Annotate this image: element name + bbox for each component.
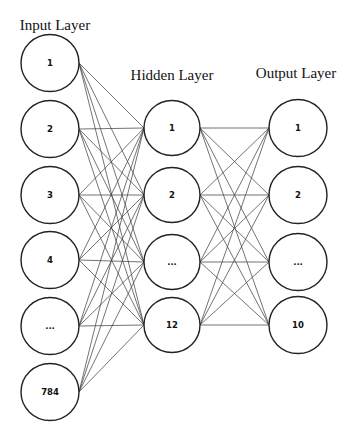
diagram-canvas: 1234...78412...1212...10 Input LayerHidd… xyxy=(0,0,352,438)
output-layer-node: 2 xyxy=(269,167,327,224)
node-label: 2 xyxy=(169,190,175,200)
node-label: 1 xyxy=(47,58,53,68)
node-label: ... xyxy=(45,321,55,331)
connection-edge xyxy=(79,262,144,392)
hidden-layer-node: 12 xyxy=(144,298,200,353)
node-label: ... xyxy=(167,257,177,267)
hidden-layer-node: 1 xyxy=(144,101,200,156)
connection-edge xyxy=(79,325,144,326)
node-label: 784 xyxy=(41,387,59,397)
connection-edge xyxy=(79,325,144,392)
input-layer-node: 2 xyxy=(21,101,79,158)
output-layer-node: ... xyxy=(269,234,327,291)
input-layer-title: Input Layer xyxy=(20,17,90,33)
input-layer-node: 784 xyxy=(21,364,79,421)
connection-edge xyxy=(79,128,144,260)
node-label: 4 xyxy=(47,255,53,265)
node-label: 3 xyxy=(47,190,53,200)
node-label: 2 xyxy=(295,190,301,200)
connection-edge xyxy=(79,195,144,392)
connection-edge xyxy=(79,128,144,129)
hidden-layer-node: ... xyxy=(144,235,200,290)
input-layer-node: 1 xyxy=(21,35,79,92)
node-label: 1 xyxy=(295,123,301,133)
node-label: 10 xyxy=(292,320,304,330)
output-layer-node: 1 xyxy=(269,100,327,157)
node-label: 2 xyxy=(47,124,53,134)
neural-network-diagram: 1234...78412...1212...10 Input LayerHidd… xyxy=(0,0,352,438)
input-layer-node: 3 xyxy=(21,167,79,224)
node-label: 1 xyxy=(169,123,175,133)
output-layer-node: 10 xyxy=(269,297,327,354)
node-label: 12 xyxy=(166,320,178,330)
hidden-layer-node: 2 xyxy=(144,168,200,223)
node-label: ... xyxy=(293,257,303,267)
input-layer-node: ... xyxy=(21,298,79,355)
output-layer-title: Output Layer xyxy=(256,65,336,81)
hidden-layer-title: Hidden Layer xyxy=(131,67,214,83)
connection-edge xyxy=(79,129,144,262)
nodes: 1234...78412...1212...10 xyxy=(21,35,327,421)
input-layer-node: 4 xyxy=(21,232,79,289)
